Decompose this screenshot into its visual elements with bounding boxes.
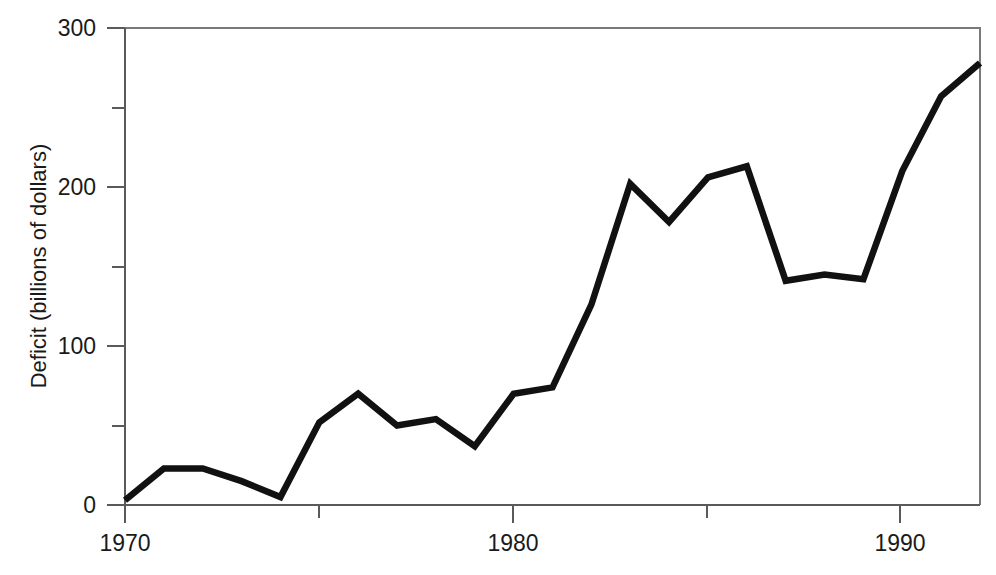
x-tick-label-1970: 1970 [99,530,150,556]
chart-figure: 0 100 200 300 1970 1980 1990 Deficit (bi… [0,0,996,575]
y-tick-label-300: 300 [58,15,96,41]
deficit-line-chart: 0 100 200 300 1970 1980 1990 Deficit (bi… [0,0,996,575]
deficit-series-line [125,63,980,500]
y-axis-title: Deficit (billions of dollars) [26,144,51,389]
x-tick-label-1980: 1980 [487,530,538,556]
plot-frame [125,28,980,505]
y-tick-label-0: 0 [83,492,96,518]
x-tick-label-1990: 1990 [874,530,925,556]
y-tick-label-100: 100 [58,333,96,359]
y-tick-label-200: 200 [58,174,96,200]
